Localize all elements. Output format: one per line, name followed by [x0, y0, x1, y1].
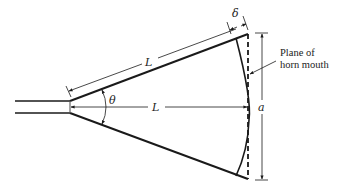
delta-dimension: δ	[227, 7, 248, 34]
callout-line2: horn mouth	[280, 59, 329, 70]
axial-length-dimension: L	[70, 101, 247, 114]
delta-label: δ	[232, 7, 239, 20]
theta-label: θ	[109, 94, 116, 107]
aperture-label: a	[258, 101, 265, 114]
slant-length-dimension: L	[66, 29, 236, 97]
callout-line1: Plane of	[280, 47, 315, 58]
aperture-dimension: a	[255, 33, 268, 180]
horn-antenna-diagram: L δ L θ a Plane of horn mouth	[0, 0, 339, 189]
slant-length-label: L	[144, 56, 152, 69]
waveguide-feed	[15, 101, 70, 113]
axial-length-label: L	[151, 101, 159, 114]
